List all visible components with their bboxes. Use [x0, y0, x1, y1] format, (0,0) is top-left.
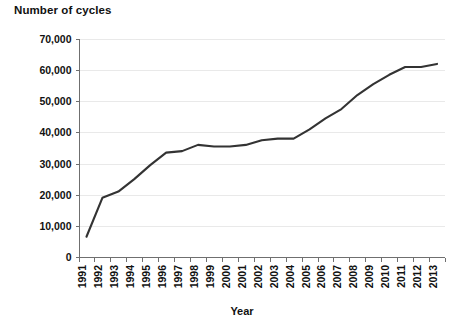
y-tick-label: 50,000	[39, 95, 71, 107]
x-tick-label: 2003	[268, 265, 280, 289]
x-tick-label: 2009	[363, 265, 375, 289]
x-tick-label: 2002	[252, 265, 264, 289]
gridlines-group	[79, 40, 446, 227]
x-tick-label: 2012	[411, 265, 423, 289]
y-tick-label: 40,000	[39, 126, 71, 138]
data-series-group	[86, 64, 437, 237]
x-tick-label: 2010	[379, 265, 391, 289]
x-tick-labels-group: 1991199219931994199519961997199819992000…	[76, 265, 439, 289]
x-tick-label: 2005	[300, 265, 312, 289]
chart-plot-area: 010,00020,00030,00040,00050,00060,00070,…	[0, 0, 468, 331]
x-tick-label: 2008	[347, 265, 359, 289]
x-tick-label: 1991	[76, 265, 88, 289]
x-tick-label: 2006	[315, 265, 327, 289]
x-tick-label: 1996	[156, 265, 168, 289]
data-line-number-of-cycles	[86, 64, 437, 237]
y-tick-label: 30,000	[39, 158, 71, 170]
x-tick-label: 2004	[284, 265, 296, 289]
x-tick-label: 2007	[331, 265, 343, 289]
x-tick-label: 2011	[395, 265, 407, 288]
y-tick-label: 70,000	[39, 33, 71, 45]
chart-container: Number of cycles 010,00020,00030,00040,0…	[0, 0, 468, 331]
x-axis-title: Year	[0, 305, 468, 317]
y-axis-group	[76, 39, 80, 258]
y-tick-labels-group: 010,00020,00030,00040,00050,00060,00070,…	[39, 33, 71, 263]
y-tick-label: 20,000	[39, 189, 71, 201]
x-tick-label: 1997	[172, 265, 184, 289]
x-tick-label: 1998	[188, 265, 200, 289]
y-tick-label: 10,000	[39, 220, 71, 232]
x-tick-label: 2000	[220, 265, 232, 289]
x-tick-label: 1993	[108, 265, 120, 289]
x-tick-label: 2013	[427, 265, 439, 289]
x-tick-label: 1992	[92, 265, 104, 289]
x-tick-label: 1994	[124, 265, 136, 289]
y-tick-label: 0	[66, 251, 72, 263]
y-tick-label: 60,000	[39, 64, 71, 76]
x-axis-title-label: Year	[230, 305, 253, 317]
x-axis-group	[80, 258, 446, 262]
x-tick-label: 2001	[236, 265, 248, 289]
x-tick-label: 1995	[140, 265, 152, 289]
x-tick-label: 1999	[204, 265, 216, 289]
